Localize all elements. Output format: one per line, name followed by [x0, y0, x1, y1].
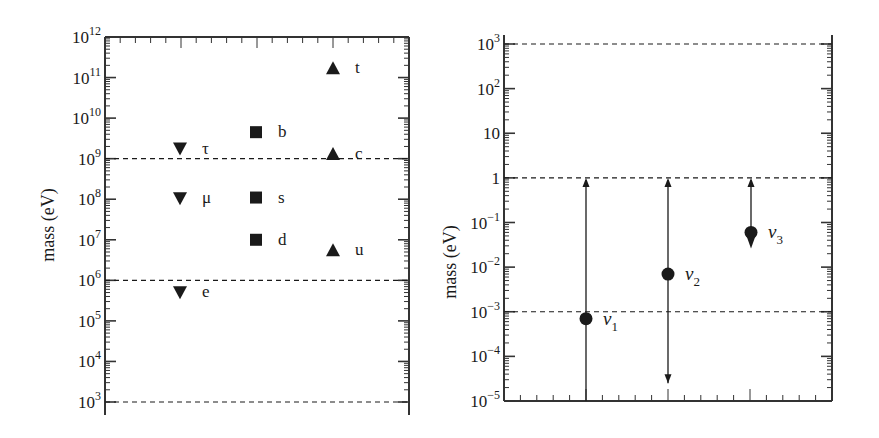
- particle-label: b: [278, 122, 287, 141]
- y-tick-label: 10−1: [470, 210, 500, 233]
- y-tick-label: 1010: [72, 105, 101, 128]
- triangle-down-marker: [173, 286, 187, 299]
- y-tick-label: 10−3: [470, 299, 500, 322]
- arrow-up-icon: [583, 178, 590, 187]
- y-axis-label: mass (eV): [38, 188, 59, 261]
- y-tick-label: 103: [477, 31, 500, 54]
- y-tick-label: 10−5: [470, 388, 500, 411]
- neutrino-marker: [745, 226, 758, 239]
- arrow-down-icon: [665, 374, 672, 383]
- triangle-up-marker: [326, 147, 340, 160]
- square-marker: [250, 234, 262, 246]
- y-tick-label: 10−2: [470, 254, 500, 277]
- neutrino-marker: [580, 312, 593, 325]
- y-tick-label: 107: [78, 227, 101, 250]
- y-tick-label: 108: [78, 186, 101, 209]
- arrow-up-icon: [665, 178, 672, 187]
- neutrino-marker: [662, 268, 675, 281]
- y-tick-label: 104: [78, 348, 101, 371]
- charged-fermion-mass-chart: 103104105106107108109101010111012mass (e…: [38, 24, 409, 415]
- particle-label: t: [355, 58, 360, 77]
- neutrino-mass-chart: 10−510−410−310−210−1110102103mass (eV)ν1…: [440, 31, 832, 411]
- particle-label: u: [355, 240, 364, 259]
- particle-label: s: [278, 188, 285, 207]
- y-tick-label: 10: [483, 124, 500, 143]
- figure: 103104105106107108109101010111012mass (e…: [0, 0, 879, 438]
- y-axis-label: mass (eV): [440, 225, 461, 298]
- y-tick-label: 10−4: [470, 343, 500, 366]
- triangle-up-marker: [326, 243, 340, 256]
- y-tick-label: 1011: [72, 65, 101, 88]
- particle-label: d: [278, 230, 287, 249]
- y-tick-label: 1: [492, 169, 501, 188]
- particle-label: c: [355, 144, 363, 163]
- y-tick-label: 103: [78, 389, 101, 412]
- y-tick-label: 1012: [72, 24, 101, 47]
- y-tick-label: 109: [78, 146, 101, 169]
- triangle-up-marker: [326, 61, 340, 74]
- square-marker: [250, 192, 262, 204]
- neutrino-label: ν2: [685, 263, 700, 289]
- arrow-up-icon: [748, 178, 755, 187]
- particle-label: μ: [202, 188, 211, 207]
- figure-canvas: 103104105106107108109101010111012mass (e…: [0, 0, 879, 438]
- neutrino-label: ν3: [768, 221, 783, 247]
- square-marker: [250, 126, 262, 138]
- particle-label: τ: [202, 139, 209, 158]
- triangle-down-marker: [173, 192, 187, 205]
- triangle-down-marker: [173, 143, 187, 156]
- y-tick-label: 105: [78, 308, 101, 331]
- particle-label: e: [202, 282, 210, 301]
- y-tick-label: 102: [477, 76, 500, 99]
- y-tick-label: 106: [78, 267, 101, 290]
